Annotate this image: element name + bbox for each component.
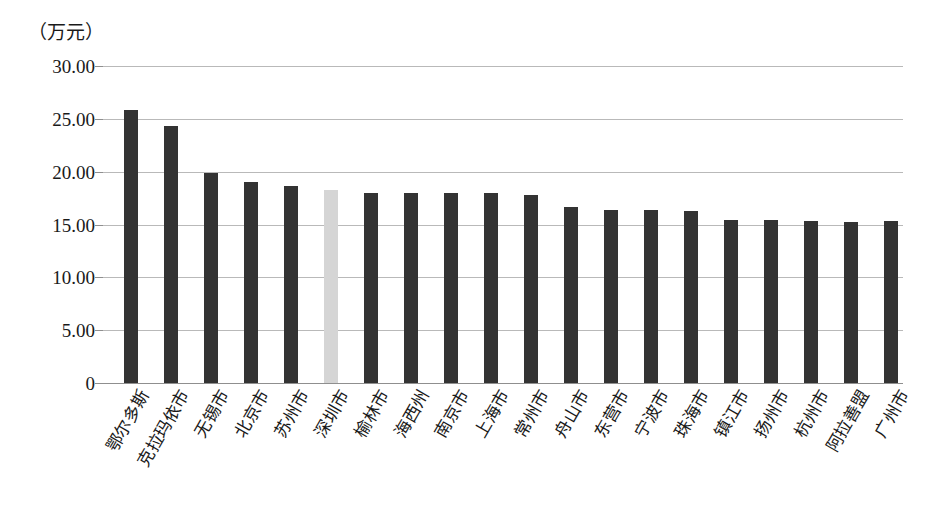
bar	[404, 193, 418, 383]
x-axis-tick-label: 海西州	[392, 387, 434, 441]
x-axis-tick-label: 南京市	[432, 387, 474, 441]
y-axis-tick-label: 25.00	[23, 109, 95, 128]
y-axis-tick-label: 10.00	[23, 268, 95, 287]
bar	[164, 126, 178, 383]
y-axis-tick-mark	[95, 225, 103, 226]
bar	[524, 195, 538, 383]
bar	[644, 210, 658, 383]
x-axis-tick-label: 无锡市	[192, 387, 234, 441]
x-axis-tick-labels: 鄂尔多斯克拉玛依市无锡市北京市苏州市深圳市榆林市海西州南京市上海市常州市舟山市东…	[103, 383, 903, 530]
gridline	[103, 225, 903, 226]
x-axis-tick-label: 北京市	[232, 387, 274, 441]
x-axis-tick-label: 东营市	[592, 387, 634, 441]
x-axis-tick-label: 苏州市	[272, 387, 314, 441]
x-axis-tick-label: 深圳市	[312, 387, 354, 441]
gridline	[103, 277, 903, 278]
y-axis-tick-mark	[95, 172, 103, 173]
gridline	[103, 172, 903, 173]
bar	[884, 221, 898, 383]
x-axis-tick-label: 珠海市	[672, 387, 714, 441]
y-axis-tick-mark	[95, 383, 103, 384]
y-axis-tick-mark	[95, 119, 103, 120]
y-axis-tick-label: 5.00	[23, 321, 95, 340]
x-axis-tick-label: 舟山市	[552, 387, 594, 441]
bar	[724, 220, 738, 383]
bar	[484, 193, 498, 383]
y-axis-tick-label: 20.00	[23, 162, 95, 181]
x-axis-tick-label: 宁波市	[632, 387, 674, 441]
y-axis-tick-label: 0	[23, 374, 95, 393]
bar	[284, 186, 298, 383]
x-axis-tick-label: 上海市	[472, 387, 514, 441]
bar	[764, 220, 778, 383]
y-axis-tick-labels: 05.0010.0015.0020.0025.0030.00	[10, 66, 95, 383]
y-axis-tick-mark	[95, 277, 103, 278]
bar	[844, 222, 858, 383]
x-axis-tick-label: 镇江市	[712, 387, 754, 441]
y-axis-tick-label: 15.00	[23, 215, 95, 234]
bar	[364, 193, 378, 383]
plot-area	[103, 66, 903, 383]
x-axis-tick-label: 榆林市	[352, 387, 394, 441]
bar	[804, 221, 818, 383]
bar	[204, 173, 218, 383]
gridline	[103, 66, 903, 67]
bar	[324, 190, 338, 383]
bar	[244, 182, 258, 383]
bar	[684, 211, 698, 383]
gridline	[103, 119, 903, 120]
x-axis-tick-label: 扬州市	[752, 387, 794, 441]
x-axis-tick-label: 常州市	[512, 387, 554, 441]
y-axis-tick-mark	[95, 330, 103, 331]
bar	[564, 207, 578, 383]
bar	[604, 210, 618, 383]
gridline	[103, 330, 903, 331]
y-axis-tick-label: 30.00	[23, 57, 95, 76]
bar	[444, 193, 458, 383]
x-axis-tick-label: 杭州市	[792, 387, 834, 441]
y-axis-tick-mark	[95, 66, 103, 67]
y-axis-unit-label: （万元）	[28, 22, 104, 44]
x-axis-tick-label: 广州市	[872, 387, 914, 441]
bar	[124, 110, 138, 383]
bar-chart: （万元） 05.0010.0015.0020.0025.0030.00 鄂尔多斯…	[0, 0, 934, 530]
